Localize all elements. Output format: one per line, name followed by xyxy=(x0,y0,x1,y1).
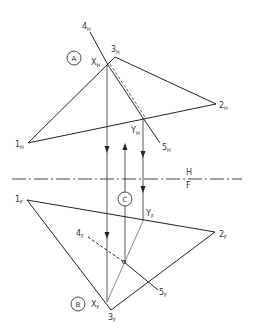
label-1h: 1H xyxy=(15,140,24,150)
marker-c: C xyxy=(118,192,132,206)
label-3f: 3F xyxy=(108,313,116,323)
fold-label-f: F xyxy=(186,181,191,190)
descriptive-geometry-diagram: A B C H F 1H 2H 3H 4H 5H XH YH 1F 2F 3F … xyxy=(0,0,254,333)
triangle-frontal-view xyxy=(27,200,215,310)
svg-text:A: A xyxy=(72,55,77,63)
label-1f: 1F xyxy=(15,195,23,205)
svg-text:C: C xyxy=(123,196,128,204)
svg-text:B: B xyxy=(76,301,81,309)
label-5h: 5H xyxy=(162,143,171,153)
label-2h: 2H xyxy=(219,101,228,111)
triangle-horizontal-view xyxy=(28,57,216,143)
label-xh: XH xyxy=(91,58,100,68)
label-yf: YF xyxy=(145,209,154,219)
label-xf: XF xyxy=(91,300,99,310)
projector-lines xyxy=(107,65,143,302)
line-4h-5h xyxy=(90,32,160,143)
label-2f: 2F xyxy=(219,230,227,240)
label-5f: 5F xyxy=(159,288,167,298)
label-3h: 3H xyxy=(111,45,120,55)
label-4f: 4F xyxy=(76,229,84,239)
fold-label-h: H xyxy=(186,168,192,177)
label-4h: 4H xyxy=(82,22,91,32)
marker-a: A xyxy=(67,51,81,65)
marker-b: B xyxy=(71,297,85,311)
label-yh: YH xyxy=(130,126,140,136)
